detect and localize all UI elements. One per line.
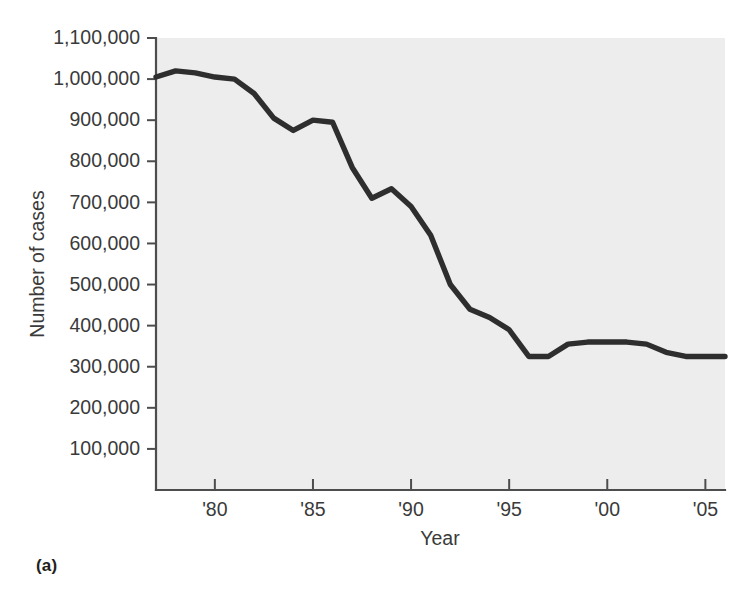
panel-label: (a) [36, 556, 57, 576]
y-axis-tick-label: 600,000 [70, 232, 141, 254]
x-axis-title: Year [420, 527, 460, 549]
y-axis-tick-label: 800,000 [70, 149, 141, 171]
figure-panel: 100,000200,000300,000400,000500,000600,0… [0, 0, 740, 594]
line-chart: 100,000200,000300,000400,000500,000600,0… [0, 0, 740, 594]
y-axis-tick-label: 200,000 [70, 396, 141, 418]
y-axis-tick-label: 100,000 [70, 437, 141, 459]
x-axis-tick-label: '80 [202, 498, 228, 520]
y-axis-tick-label: 400,000 [70, 314, 141, 336]
y-axis-title: Number of cases [26, 190, 48, 338]
x-axis-tick-label: '00 [595, 498, 621, 520]
y-axis-tick-label: 700,000 [70, 191, 141, 213]
y-axis-tick-labels: 100,000200,000300,000400,000500,000600,0… [53, 26, 140, 459]
y-axis-ticks [147, 38, 156, 449]
y-axis-tick-label: 300,000 [70, 355, 141, 377]
x-axis-tick-label: '85 [300, 498, 326, 520]
y-axis-tick-label: 1,000,000 [53, 67, 140, 89]
y-axis-tick-label: 500,000 [70, 273, 141, 295]
x-axis-tick-label: '95 [496, 498, 522, 520]
y-axis-tick-label: 1,100,000 [53, 26, 140, 48]
x-axis-tick-labels: '80'85'90'95'00'05 [202, 498, 718, 520]
y-axis-tick-label: 900,000 [70, 108, 141, 130]
x-axis-tick-label: '05 [693, 498, 719, 520]
x-axis-tick-label: '90 [398, 498, 424, 520]
